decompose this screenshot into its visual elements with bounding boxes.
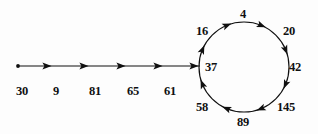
cycle-node-label-37: 37 xyxy=(205,61,217,74)
tail-node-label-61: 61 xyxy=(164,85,176,98)
rho-diagram-canvas: 3098165613758891454220416 xyxy=(0,0,318,134)
cycle-arrowhead-3 xyxy=(280,79,290,90)
cycle-arrowhead-7 xyxy=(198,44,208,55)
cycle-node-label-20: 20 xyxy=(283,25,295,38)
cycle-arrowhead-5 xyxy=(256,21,267,31)
tail-path-group xyxy=(16,63,200,70)
cycle-node-label-42: 42 xyxy=(289,61,301,74)
cycle-node-label-16: 16 xyxy=(196,25,208,38)
cycle-arrowhead-2 xyxy=(255,104,266,114)
cycle-arrowhead-4 xyxy=(281,45,291,56)
tail-start-dot xyxy=(16,64,20,68)
tail-node-label-81: 81 xyxy=(89,85,101,98)
cycle-arrowhead-0 xyxy=(197,78,207,89)
cycle-arrowhead-1 xyxy=(221,103,232,113)
tail-node-label-30: 30 xyxy=(16,85,28,98)
cycle-arrowhead-6 xyxy=(222,20,233,30)
tail-node-label-65: 65 xyxy=(127,85,139,98)
tail-node-label-9: 9 xyxy=(53,85,59,98)
cycle-node-label-145: 145 xyxy=(277,101,295,114)
cycle-node-label-4: 4 xyxy=(240,8,246,21)
cycle-node-label-58: 58 xyxy=(196,101,208,114)
diagram-svg xyxy=(0,0,318,134)
cycle-node-label-89: 89 xyxy=(237,116,249,129)
